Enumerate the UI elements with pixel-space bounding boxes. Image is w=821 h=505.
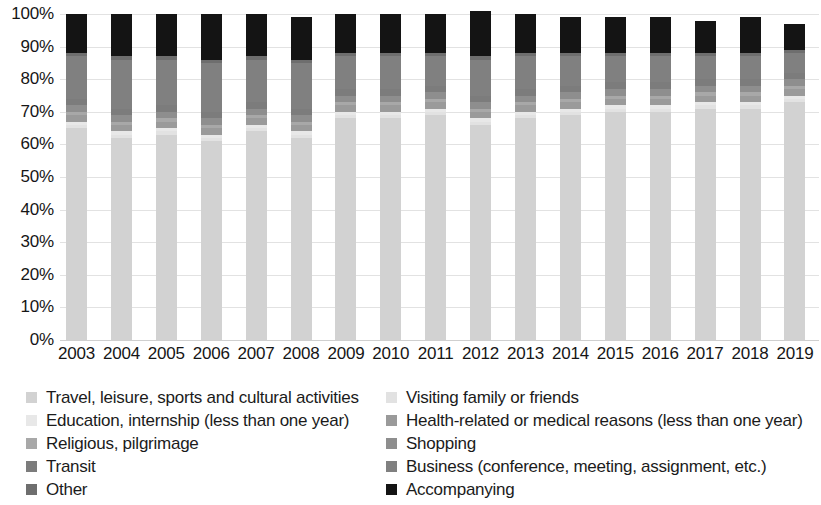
bar-segment [156,112,177,119]
bar-segment [470,112,491,119]
bar-segment [560,17,581,53]
x-axis-tick-label: 2009 [321,343,371,365]
bar-segment [111,60,132,109]
bar-segment [156,118,177,121]
bar-segment [201,125,222,128]
bar-segment [66,105,87,112]
bar-segment [291,122,312,125]
bar-segment [201,63,222,112]
legend-item[interactable]: Transit [26,455,386,477]
bar-segment [66,112,87,115]
y-axis-tick-label: 90% [0,38,54,55]
legend-column-right: Visiting family or friendsHealth-related… [386,386,816,501]
bar-2009 [335,14,356,340]
bar-segment [335,102,356,105]
bar-segment [470,56,491,59]
bar-segment [470,109,491,112]
legend-item-label: Transit [46,457,96,476]
bar-segment [740,102,761,105]
legend-item[interactable]: Business (conference, meeting, assignmen… [386,455,816,477]
legend-item[interactable]: Education, internship (less than one yea… [26,409,386,431]
bar-segment [291,109,312,116]
bar-segment [156,105,177,112]
bar-segment [380,105,401,112]
bar-segment [425,14,446,53]
legend-swatch-icon [26,484,37,495]
bar-segment [784,99,805,102]
legend-swatch-icon [26,461,37,472]
bar-segment [156,122,177,129]
bar-segment [605,99,626,106]
legend-item-label: Health-related or medical reasons (less … [406,411,803,430]
bar-segment [784,50,805,53]
bar-segment [650,56,671,82]
plot-area: 0%10%20%30%40%50%60%70%80%90%100% [0,0,821,375]
bar-2014 [560,14,581,340]
bar-segment [246,60,267,102]
bar-2012 [470,14,491,340]
bar-segment [515,56,536,89]
bar-segment [335,14,356,53]
legend-item[interactable]: Health-related or medical reasons (less … [386,409,816,431]
legend-item[interactable]: Other [26,478,386,500]
bar-segment [650,89,671,96]
legend-item[interactable]: Accompanying [386,478,816,500]
legend-item[interactable]: Shopping [386,432,816,454]
bar-segment [695,21,716,54]
bar-segment [425,56,446,85]
bar-segment [380,89,401,96]
bar-segment [650,109,671,112]
bar-segment [111,122,132,125]
bar-segment [335,53,356,56]
legend-item-label: Business (conference, meeting, assignmen… [406,457,766,476]
bar-segment [515,118,536,340]
x-axis-tick-label: 2018 [725,343,775,365]
bar-segment [650,105,671,108]
bar-segment [380,112,401,115]
bar-segment [66,56,87,98]
bar-segment [66,115,87,122]
legend-item[interactable]: Travel, leisure, sports and cultural act… [26,386,386,408]
bar-segment [605,17,626,53]
chart-legend: Travel, leisure, sports and cultural act… [0,386,821,505]
legend-swatch-icon [386,392,397,403]
bar-segment [425,102,446,109]
bar-2019 [784,14,805,340]
legend-swatch-icon [386,415,397,426]
legend-item[interactable]: Religious, pilgrimage [26,432,386,454]
legend-item-label: Shopping [406,434,476,453]
bar-segment [246,109,267,116]
bar-segment [201,60,222,63]
bar-segment [560,99,581,102]
bar-segment [246,102,267,109]
bar-segment [740,53,761,56]
bar-segment [111,135,132,138]
legend-item-label: Other [46,480,87,499]
bar-segment [335,96,356,103]
bar-segment [515,14,536,53]
bar-segment [695,96,716,103]
bar-segment [335,112,356,115]
legend-swatch-icon [386,484,397,495]
legend-item[interactable]: Visiting family or friends [386,386,816,408]
bar-segment [156,14,177,56]
bar-segment [515,53,536,56]
bar-segment [515,96,536,103]
bar-segment [560,109,581,112]
bar-segment [605,53,626,56]
x-axis-tick-label: 2017 [680,343,730,365]
bar-2015 [605,14,626,340]
bar-segment [515,105,536,112]
x-axis: 2003200420052006200720082009201020112012… [60,343,819,373]
bar-segment [246,131,267,340]
bar-segment [246,125,267,128]
bar-segment [291,63,312,109]
bar-segment [425,86,446,93]
bar-segment [740,86,761,93]
bar-segment [695,105,716,108]
bar-segment [156,128,177,131]
bar-segment [66,14,87,53]
x-axis-tick-label: 2006 [186,343,236,365]
y-axis-tick-label: 20% [0,266,54,283]
x-axis-tick-label: 2005 [141,343,191,365]
